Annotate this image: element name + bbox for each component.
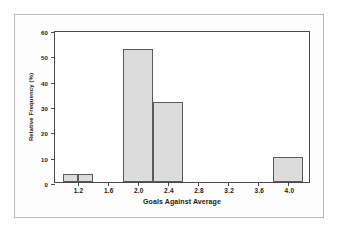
histogram-bar	[273, 157, 303, 182]
y-axis-tick: 20	[51, 133, 55, 134]
y-axis-tick: 30	[51, 108, 55, 109]
x-axis-tick: 1.2	[78, 182, 79, 186]
y-axis-tick: 60	[51, 32, 55, 33]
histogram-bar	[63, 174, 78, 182]
x-axis-tick-label: 1.2	[74, 187, 84, 194]
x-axis-tick-label: 2.8	[194, 187, 204, 194]
y-axis-tick-label: 20	[41, 131, 48, 137]
x-axis-tick-label: 2.4	[164, 187, 174, 194]
y-axis-title: Relative Frequency (%)	[26, 31, 36, 183]
x-axis-tick: 3.2	[228, 182, 229, 186]
y-axis-tick: 0	[51, 184, 55, 185]
x-axis-title: Goals Against Average	[54, 198, 310, 205]
y-axis-tick-label: 60	[41, 30, 48, 36]
x-axis-tick: 3.6	[258, 182, 259, 186]
y-axis-tick-label: 0	[44, 182, 48, 188]
y-axis-tick-label: 40	[41, 81, 48, 87]
x-axis-tick-label: 1.6	[104, 187, 114, 194]
x-axis-tick: 2.8	[198, 182, 199, 186]
histogram-figure: 0102030405060 1.21.62.02.42.83.23.64.0 G…	[0, 0, 339, 233]
x-axis-tick-label: 3.2	[224, 187, 234, 194]
y-axis-tick-label: 50	[41, 55, 48, 61]
y-axis-tick-label: 30	[41, 106, 48, 112]
y-axis-title-text: Relative Frequency (%)	[28, 73, 34, 141]
x-axis-tick-label: 4.0	[285, 187, 295, 194]
y-axis-tick: 10	[51, 159, 55, 160]
histogram-bar	[123, 49, 153, 182]
plot-area: 0102030405060 1.21.62.02.42.83.23.64.0	[54, 31, 310, 183]
x-axis-tick-label: 2.0	[134, 187, 144, 194]
x-axis-tick-label: 3.6	[254, 187, 264, 194]
x-axis-tick: 2.4	[168, 182, 169, 186]
histogram-bar	[153, 102, 183, 182]
y-axis-tick: 40	[51, 83, 55, 84]
x-axis-tick: 2.0	[138, 182, 139, 186]
x-axis-tick: 4.0	[288, 182, 289, 186]
x-axis-tick: 1.6	[108, 182, 109, 186]
y-axis-tick-label: 10	[41, 157, 48, 163]
histogram-bar	[78, 174, 93, 182]
y-axis-tick: 50	[51, 57, 55, 58]
